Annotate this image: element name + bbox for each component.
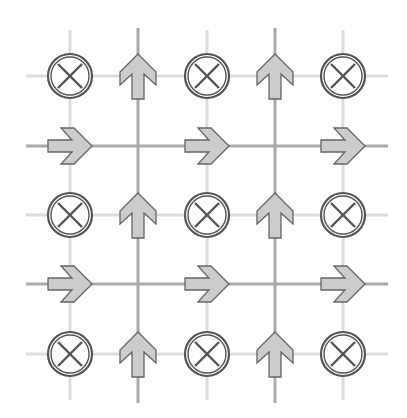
circled-x-icon	[321, 54, 365, 98]
right-arrow-icon	[48, 266, 92, 302]
circled-x-icon	[48, 54, 92, 98]
up-arrow-icon	[120, 54, 156, 99]
up-arrow-icon	[120, 332, 156, 377]
up-arrow-icon	[257, 193, 293, 238]
right-arrow-icon	[185, 266, 229, 302]
up-arrow-icon	[120, 193, 156, 238]
circled-x-icon	[48, 332, 92, 376]
right-arrow-icon	[321, 128, 365, 164]
right-arrow-icon	[48, 128, 92, 164]
right-arrow-icon	[185, 128, 229, 164]
circled-x-icon	[185, 54, 229, 98]
circled-x-icon	[321, 193, 365, 237]
up-arrow-icon	[257, 54, 293, 99]
right-arrow-icon	[321, 266, 365, 302]
circled-x-icon	[321, 332, 365, 376]
diagram-canvas	[0, 0, 407, 418]
circled-x-icon	[48, 193, 92, 237]
circled-x-icon	[185, 193, 229, 237]
circled-x-icon	[185, 332, 229, 376]
up-arrow-icon	[257, 332, 293, 377]
field-lattice-diagram	[0, 0, 407, 418]
